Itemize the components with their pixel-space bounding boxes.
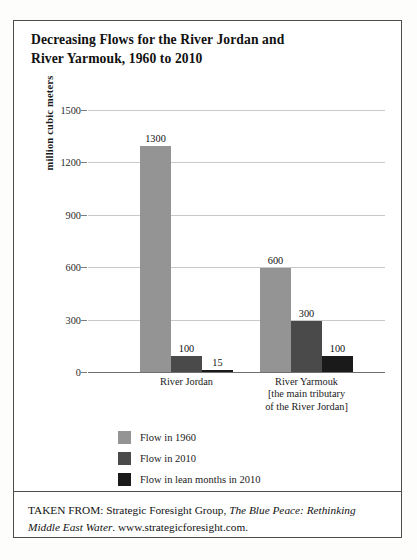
chart-legend: Flow in 1960Flow in 2010Flow in lean mon…: [118, 427, 260, 490]
y-tick-label-1200: 1200: [60, 157, 81, 168]
legend-item: Flow in lean months in 2010: [118, 469, 260, 490]
chart-plot-area: million cubic meters 030060090012001500 …: [14, 73, 401, 408]
chart-axes: 030060090012001500 130010015600300100 Ri…: [88, 111, 385, 373]
legend-swatch: [118, 473, 131, 486]
source-suffix: . www.strategicforesight.com.: [112, 521, 248, 533]
category-label-line-3: of the River Jordan]: [238, 401, 375, 413]
y-tick-mark-1200: [81, 162, 87, 163]
bar-value-label: 600: [268, 255, 283, 266]
y-tick-mark-1500: [81, 110, 87, 111]
page-title: Decreasing Flows for the River Jordan an…: [31, 31, 376, 68]
legend-swatch: [118, 452, 131, 465]
y-tick-mark-0: [81, 372, 87, 373]
x-axis-category-label: River Jordan: [118, 376, 255, 388]
category-label-line-1: River Yarmouk: [238, 376, 375, 388]
y-tick-mark-300: [81, 320, 87, 321]
y-tick-label-300: 300: [66, 314, 81, 325]
bar-value-label: 15: [212, 357, 222, 368]
y-tick-label-600: 600: [66, 262, 81, 273]
bar: 1300: [140, 146, 171, 373]
bar: 300: [291, 321, 322, 373]
bar-group: 130010015: [140, 111, 233, 373]
y-tick-label-900: 900: [66, 209, 81, 220]
bar: 100: [322, 356, 353, 373]
y-tick-mark-900: [81, 215, 87, 216]
x-axis-line: [88, 372, 385, 373]
y-tick-mark-600: [81, 267, 87, 268]
figure-frame: Decreasing Flows for the River Jordan an…: [13, 20, 402, 538]
x-axis-category-label: River Yarmouk[the main tributaryof the R…: [238, 376, 375, 413]
category-label-line-2: [the main tributary: [238, 388, 375, 400]
figure-page: Decreasing Flows for the River Jordan an…: [0, 0, 417, 560]
legend-label: Flow in lean months in 2010: [140, 474, 260, 485]
legend-label: Flow in 2010: [140, 453, 196, 464]
bar: 100: [171, 356, 202, 373]
category-label-line-1: River Jordan: [118, 376, 255, 388]
source-citation: TAKEN FROM: Strategic Foresight Group, T…: [28, 502, 388, 535]
source-title-part-1: The Blue Peace:: [229, 504, 304, 516]
bar-groups: 130010015600300100: [88, 111, 385, 373]
y-tick-label-1500: 1500: [60, 105, 81, 116]
legend-swatch: [118, 431, 131, 444]
title-line-1: Decreasing Flows for the River Jordan an…: [31, 32, 284, 47]
legend-label: Flow in 1960: [140, 432, 196, 443]
title-line-2: River Yarmouk, 1960 to 2010: [31, 50, 376, 69]
footer-divider: [14, 491, 401, 492]
bar-value-label: 300: [299, 308, 314, 319]
bar: 600: [260, 268, 291, 373]
bar-value-label: 1300: [145, 133, 166, 144]
source-prefix: TAKEN FROM: Strategic Foresight Group,: [28, 504, 229, 516]
bar-value-label: 100: [330, 343, 345, 354]
bar-value-label: 100: [179, 343, 194, 354]
legend-item: Flow in 1960: [118, 427, 260, 448]
y-axis-label: million cubic meters: [44, 63, 55, 183]
bar-group: 600300100: [260, 111, 353, 373]
legend-item: Flow in 2010: [118, 448, 260, 469]
